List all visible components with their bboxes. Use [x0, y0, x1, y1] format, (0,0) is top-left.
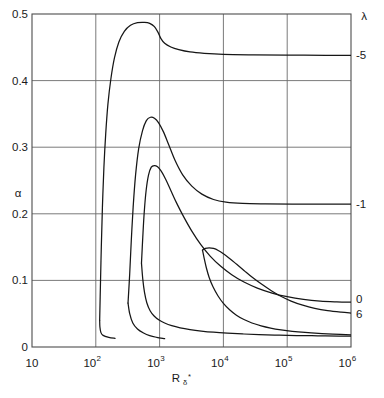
x-tick-exponent: 3	[160, 354, 165, 363]
y-tick-0.2: 0.2	[12, 208, 28, 220]
x-tick-1000: 103	[147, 354, 165, 369]
y-tick-0: 0	[22, 341, 28, 353]
x-tick-100000: 105	[275, 354, 293, 369]
x-tick-base: 10	[275, 357, 288, 369]
y-tick-0.1: 0.1	[12, 274, 28, 286]
x-tick-base: 10	[83, 357, 96, 369]
y-tick-0.3: 0.3	[12, 141, 28, 153]
x-tick-1000000: 106	[339, 354, 357, 369]
curve-label-6: 6	[356, 308, 362, 320]
x-tick-10: 10	[26, 357, 39, 369]
x-tick-base: 10	[339, 357, 352, 369]
x-tick-10000: 104	[211, 354, 229, 369]
curve-lines	[100, 22, 351, 338]
legend-title-lambda: λ	[361, 10, 367, 22]
stability-curve--5	[100, 22, 351, 320]
x-axis-label: R δ *	[172, 372, 191, 387]
stability-curve-0	[141, 166, 351, 303]
x-tick-100: 102	[83, 354, 101, 369]
stability-curve--5-lower	[100, 320, 115, 338]
chart-container: 10102103104105106 00.10.20.30.40.5 -5-10…	[0, 0, 384, 398]
curve-label-neg1: -1	[356, 198, 366, 210]
x-axis-label-subscript: δ	[183, 378, 187, 387]
y-axis-tick-labels: 00.10.20.30.40.5	[12, 8, 29, 353]
neutral-stability-chart: 10102103104105106 00.10.20.30.40.5 -5-10…	[0, 0, 384, 398]
stability-curve--1	[128, 117, 351, 303]
y-tick-0.4: 0.4	[12, 75, 29, 87]
x-axis-tick-labels: 10102103104105106	[26, 354, 357, 369]
x-tick-exponent: 2	[97, 354, 102, 363]
curve-label-neg5: -5	[356, 49, 366, 61]
curve-label-0: 0	[356, 293, 362, 305]
y-axis-label: α	[15, 187, 22, 199]
y-tick-0.5: 0.5	[12, 8, 28, 20]
stability-curve-0-lower	[141, 263, 351, 336]
x-tick-exponent: 4	[224, 354, 229, 363]
x-tick-exponent: 6	[352, 354, 357, 363]
stability-curve-6-lower	[202, 250, 351, 335]
x-axis-label-superscript: *	[188, 372, 191, 381]
x-tick-base: 10	[211, 357, 224, 369]
grid-lines	[32, 14, 351, 347]
x-tick-base: 10	[147, 357, 160, 369]
x-axis-label-base: R	[172, 372, 180, 384]
curves-clipped	[100, 22, 351, 338]
plot-frame	[32, 14, 351, 347]
x-tick-base: 10	[26, 357, 39, 369]
x-tick-exponent: 5	[288, 354, 293, 363]
curve-end-labels: -5-106	[356, 49, 366, 319]
